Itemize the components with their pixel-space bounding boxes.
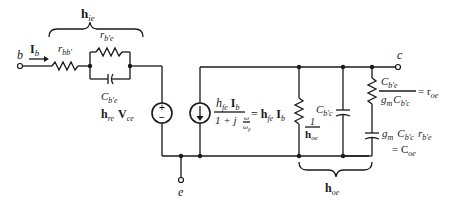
label-rbb: rbb': [58, 42, 72, 57]
label-ib: Ib: [30, 42, 40, 58]
brace-hoe: [299, 162, 372, 177]
terminal-b: [18, 64, 23, 69]
omega: ω: [244, 114, 249, 122]
terminal-b-label: b: [17, 48, 23, 62]
label-hfe-denominator: 1 + j: [215, 114, 236, 126]
resistor-rbe: [96, 48, 122, 56]
terminal-c: [396, 65, 401, 70]
label-hfe-numerator: hfeIb: [216, 96, 239, 112]
resistor-rbb: [52, 62, 78, 70]
label-hoe-den: hoe: [305, 128, 318, 142]
label-rbe: rb'e: [100, 28, 114, 43]
label-coe-line1: gmCb'crb'e: [382, 127, 432, 142]
label-roe-den: gmCb'c: [381, 93, 410, 108]
resistor-1-hoe: [295, 98, 303, 124]
label-roe-num: Cb'e: [381, 75, 398, 90]
terminal-e: [179, 178, 184, 183]
label-hie: hie: [81, 6, 95, 23]
label-cbe: Cb'e: [101, 90, 118, 105]
terminal-c-label: c: [397, 48, 403, 62]
label-hfe-ib: =hfeIb: [251, 107, 285, 123]
terminal-e-label: e: [178, 185, 184, 199]
label-coe-line2: = Coe: [392, 143, 416, 158]
minus-sign: −: [159, 112, 165, 123]
omega-beta: ωβ: [243, 123, 251, 132]
resistor-roe: [368, 78, 376, 104]
label-roe-eq: = roe: [418, 85, 439, 100]
brace-hie: [49, 22, 143, 37]
label-1: 1: [310, 116, 315, 127]
label-cbc: Cb'c: [316, 103, 333, 118]
label-hre-vce: hreVce: [101, 107, 134, 123]
circuit-diagram: hie b Ib rbb' rb'e Cb'e + − hreVce e hfe…: [0, 0, 455, 205]
ib-arrowhead: [44, 56, 49, 62]
label-hoe: hoe: [325, 181, 340, 197]
